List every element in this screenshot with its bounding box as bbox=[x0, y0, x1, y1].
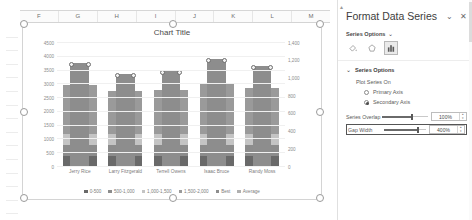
chart-resize-handle-top-right[interactable] bbox=[316, 20, 324, 28]
bar-group[interactable] bbox=[197, 43, 236, 167]
category-axis-labels[interactable]: Jerry RiceLarry FitzgeraldTerrell OwensI… bbox=[57, 169, 285, 179]
secondary-axis-tick: 1,400 bbox=[288, 41, 300, 46]
chart-resize-handle-top-middle[interactable] bbox=[169, 20, 177, 28]
legend-swatch bbox=[216, 190, 220, 194]
row-header-11[interactable] bbox=[6, 160, 18, 174]
series-overlap-stepper[interactable]: 100% ▴▾ bbox=[431, 112, 467, 121]
pane-pin-icon[interactable]: ▴ bbox=[340, 3, 343, 10]
row-header-8[interactable] bbox=[6, 119, 18, 133]
column-header-k[interactable]: K bbox=[214, 11, 253, 22]
format-data-series-pane: ▴ Format Data Series ⌄ ✕ Series Options … bbox=[337, 0, 472, 220]
series-overlap-value[interactable]: 100% bbox=[432, 113, 459, 120]
series-overlap-label: Series Overlap bbox=[346, 114, 382, 120]
pane-title: Format Data Series bbox=[346, 10, 437, 22]
radio-secondary-axis[interactable]: Secondary Axis bbox=[364, 99, 410, 105]
column-header-h[interactable]: H bbox=[98, 11, 137, 22]
fill-line-icon[interactable] bbox=[346, 41, 360, 55]
series-selection-handle[interactable] bbox=[160, 70, 165, 75]
gridline bbox=[57, 152, 285, 153]
secondary-axis-tick: 200 bbox=[288, 147, 296, 152]
column-header-j[interactable]: J bbox=[176, 11, 215, 22]
row-header-6[interactable] bbox=[6, 92, 18, 106]
bar-group[interactable] bbox=[152, 43, 191, 167]
primary-axis-tick: 500 bbox=[46, 151, 54, 156]
row-header-3[interactable] bbox=[6, 51, 18, 65]
category-label: Randy Moss bbox=[239, 169, 285, 179]
row-header-5[interactable] bbox=[6, 78, 18, 92]
series-selection-handle[interactable] bbox=[206, 58, 211, 63]
legend-label: 1,500-2,000 bbox=[184, 189, 209, 194]
legend-item[interactable]: Average bbox=[237, 189, 260, 194]
chart-resize-handle-top-left[interactable] bbox=[20, 20, 28, 28]
pane-tab-row[interactable] bbox=[346, 41, 398, 55]
legend-item[interactable]: 500-1,000 bbox=[108, 189, 134, 194]
row-header-10[interactable] bbox=[6, 146, 18, 160]
gap-width-stepper[interactable]: 400% ▴▾ bbox=[429, 125, 465, 134]
gap-width-value[interactable]: 400% bbox=[430, 126, 457, 133]
row-header-1[interactable] bbox=[6, 24, 18, 38]
legend-item[interactable]: 0-500 bbox=[84, 189, 101, 194]
primary-axis-tick: 3500 bbox=[44, 68, 54, 73]
primary-axis-tick: 3000 bbox=[44, 82, 54, 87]
chart-resize-handle-middle-left[interactable] bbox=[20, 108, 28, 116]
primary-axis-tick: 2500 bbox=[44, 96, 54, 101]
plot-area[interactable]: 0500100015002000250030003500400045000200… bbox=[57, 43, 285, 167]
row-header-9[interactable] bbox=[6, 133, 18, 147]
column-header-m[interactable]: M bbox=[292, 11, 330, 22]
series-selection-handle[interactable] bbox=[115, 73, 120, 78]
radio-primary-axis-label: Primary Axis bbox=[373, 89, 403, 95]
legend-item[interactable]: Best bbox=[216, 189, 231, 194]
series-options-header[interactable]: Series Options ⌄ bbox=[346, 31, 393, 37]
pane-divider bbox=[338, 60, 472, 61]
slider-knob[interactable] bbox=[417, 127, 420, 133]
chart-resize-handle-bottom-middle[interactable] bbox=[169, 194, 177, 202]
gridline bbox=[57, 70, 285, 71]
series-selection-handle[interactable] bbox=[69, 62, 74, 67]
excel-chart-screen: FGHIJKLM Chart Title 0500100015002000250… bbox=[0, 0, 472, 220]
chart-title[interactable]: Chart Title bbox=[23, 28, 321, 37]
chevron-down-icon[interactable]: ⌄ bbox=[446, 12, 453, 21]
series-selection-handle[interactable] bbox=[177, 70, 182, 75]
chart-resize-handle-bottom-left[interactable] bbox=[20, 194, 28, 202]
row-header-2[interactable] bbox=[6, 38, 18, 52]
legend-item[interactable]: 1,000-1,500 bbox=[142, 189, 172, 194]
series-options-header-label: Series Options bbox=[346, 31, 385, 37]
gridline bbox=[57, 111, 285, 112]
chart-object[interactable]: Chart Title 0500100015002000250030003500… bbox=[22, 22, 322, 200]
bar-group[interactable] bbox=[60, 43, 99, 167]
series-overlap-row[interactable]: Series Overlap 100% ▴▾ bbox=[346, 111, 467, 122]
legend-label: 1,000-1,500 bbox=[147, 189, 172, 194]
stepper-arrows[interactable]: ▴▾ bbox=[457, 126, 464, 133]
chart-resize-handle-bottom-right[interactable] bbox=[316, 194, 324, 202]
column-header-g[interactable]: G bbox=[59, 11, 98, 22]
row-header-14[interactable] bbox=[6, 201, 18, 215]
series-overlap-slider[interactable] bbox=[382, 113, 428, 121]
column-header-l[interactable]: L bbox=[253, 11, 292, 22]
row-header-4[interactable] bbox=[6, 65, 18, 79]
bar-group[interactable] bbox=[243, 43, 282, 167]
row-header-7[interactable] bbox=[6, 106, 18, 120]
chevron-down-icon[interactable]: ⌄ bbox=[346, 67, 351, 73]
bar-group[interactable] bbox=[106, 43, 145, 167]
row-header-12[interactable] bbox=[6, 174, 18, 188]
series-selection-handle[interactable] bbox=[131, 73, 136, 78]
series-selection-handle[interactable] bbox=[86, 62, 91, 67]
legend-item[interactable]: 1,500-2,000 bbox=[179, 189, 209, 194]
chart-resize-handle-middle-right[interactable] bbox=[316, 108, 324, 116]
chevron-down-icon[interactable]: ⌄ bbox=[388, 31, 393, 37]
series-options-section-title[interactable]: ⌄ Series Options bbox=[346, 67, 394, 73]
effects-icon[interactable] bbox=[365, 41, 379, 55]
row-header-column[interactable] bbox=[6, 24, 18, 214]
stepper-arrows[interactable]: ▴▾ bbox=[459, 113, 466, 120]
slider-knob[interactable] bbox=[411, 114, 414, 120]
close-icon[interactable]: ✕ bbox=[460, 12, 467, 21]
gridline bbox=[57, 166, 285, 167]
row-header-15[interactable] bbox=[6, 214, 18, 220]
radio-primary-axis[interactable]: Primary Axis bbox=[364, 89, 403, 95]
gap-width-slider[interactable] bbox=[384, 126, 426, 134]
primary-axis-tick: 2000 bbox=[44, 109, 54, 114]
row-header-13[interactable] bbox=[6, 187, 18, 201]
best-series-bar[interactable] bbox=[207, 59, 226, 167]
gap-width-row[interactable]: Gap Width 400% ▴▾ bbox=[346, 124, 467, 135]
series-options-icon[interactable] bbox=[384, 41, 398, 55]
